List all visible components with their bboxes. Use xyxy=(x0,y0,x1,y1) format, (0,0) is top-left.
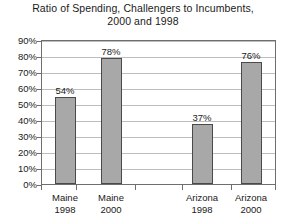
x-tick-mark-3 xyxy=(182,185,183,190)
x-cat-label-arizona-1998: Arizona 1998 xyxy=(186,192,218,216)
bar-maine-2000 xyxy=(101,58,122,184)
chart-title: Ratio of Spending, Challengers to Incumb… xyxy=(0,2,286,28)
x-cat-label-maine-1998-line-2: 1998 xyxy=(52,204,78,216)
y-tick-label-70: 70% xyxy=(0,68,37,78)
x-tick-mark-4 xyxy=(231,185,232,190)
chart-title-line-2: 2000 and 1998 xyxy=(0,15,286,28)
y-tick-label-90: 90% xyxy=(0,36,37,46)
x-cat-label-maine-1998: Maine 1998 xyxy=(52,192,78,216)
chart-title-line-1: Ratio of Spending, Challengers to Incumb… xyxy=(0,2,286,15)
gridline-90 xyxy=(42,41,275,42)
x-tick-mark-1 xyxy=(76,185,77,190)
x-cat-label-maine-1998-line-1: Maine xyxy=(52,192,78,204)
y-tick-label-0: 0% xyxy=(0,180,37,190)
bar-value-maine-1998: 54% xyxy=(55,85,74,96)
y-tick-label-20: 20% xyxy=(0,148,37,158)
x-cat-label-maine-2000-line-2: 2000 xyxy=(98,204,124,216)
x-cat-label-arizona-1998-line-1: Arizona xyxy=(186,192,218,204)
plot-area xyxy=(41,40,276,185)
y-tick-label-60: 60% xyxy=(0,84,37,94)
bar-value-arizona-2000: 76% xyxy=(241,50,260,61)
x-cat-label-arizona-2000-line-2: 2000 xyxy=(235,204,267,216)
bar-arizona-1998 xyxy=(192,124,213,184)
bar-value-maine-2000: 78% xyxy=(101,46,120,57)
bar-chart: Ratio of Spending, Challengers to Incumb… xyxy=(0,0,286,223)
x-tick-mark-5 xyxy=(275,185,276,190)
y-tick-label-30: 30% xyxy=(0,132,37,142)
x-cat-label-maine-2000-line-1: Maine xyxy=(98,192,124,204)
x-cat-label-arizona-2000-line-1: Arizona xyxy=(235,192,267,204)
y-tick-label-10: 10% xyxy=(0,164,37,174)
bar-arizona-2000 xyxy=(241,62,262,184)
y-tick-label-80: 80% xyxy=(0,52,37,62)
x-tick-mark-0 xyxy=(41,185,42,190)
x-axis: Maine 1998 Maine 2000 Arizona 1998 Arizo… xyxy=(41,192,276,222)
y-tick-label-40: 40% xyxy=(0,116,37,126)
y-axis: 90% 80% 70% 60% 50% 40% 30% 20% 10% 0% xyxy=(0,40,37,185)
bar-maine-1998 xyxy=(55,97,76,184)
x-cat-label-arizona-2000: Arizona 2000 xyxy=(235,192,267,216)
bar-value-arizona-1998: 37% xyxy=(192,112,211,123)
y-tick-label-50: 50% xyxy=(0,100,37,110)
x-cat-label-maine-2000: Maine 2000 xyxy=(98,192,124,216)
gridline-80 xyxy=(42,57,275,58)
x-tick-mark-2 xyxy=(135,185,136,190)
x-cat-label-arizona-1998-line-2: 1998 xyxy=(186,204,218,216)
